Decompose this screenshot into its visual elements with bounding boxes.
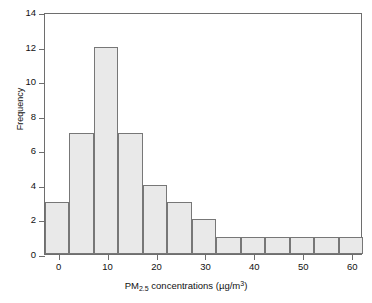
- y-axis-tick-label: 14: [10, 7, 36, 18]
- x-axis-tick-label: 30: [190, 261, 220, 272]
- y-axis-tick-label: 2: [10, 214, 36, 225]
- y-axis-tick-label: 6: [10, 145, 36, 156]
- x-axis-title: PM2.5 concentrations (µg/m3): [0, 280, 372, 292]
- x-axis-tick: [59, 255, 60, 260]
- x-axis-tick: [303, 255, 304, 260]
- y-axis-tick: [39, 83, 45, 84]
- x-axis-tick-label: 50: [288, 261, 318, 272]
- histogram-bar: [69, 133, 93, 254]
- bar-series: [45, 14, 361, 254]
- x-axis-title-middle: concentrations (µg/m: [149, 280, 241, 291]
- histogram-bar: [192, 219, 216, 254]
- y-axis-tick-label: 0: [10, 249, 36, 260]
- y-axis-tick-label: 4: [10, 180, 36, 191]
- histogram-figure: Frequency 02468101214 0102030405060 PM2.…: [0, 0, 372, 303]
- y-axis-title: Frequency: [15, 59, 25, 159]
- y-axis-tick-label: 12: [10, 42, 36, 53]
- histogram-bar: [290, 237, 314, 254]
- histogram-bar: [167, 202, 191, 254]
- y-axis-tick: [39, 14, 45, 15]
- histogram-bar: [118, 133, 142, 254]
- x-axis-title-suffix: ): [244, 280, 247, 291]
- y-axis-tick: [39, 152, 45, 153]
- histogram-bar: [339, 237, 363, 254]
- x-axis-tick: [254, 255, 255, 260]
- y-axis-tick-label: 10: [10, 76, 36, 87]
- histogram-bar: [94, 47, 118, 254]
- y-axis-tick: [39, 221, 45, 222]
- histogram-bar: [143, 185, 167, 254]
- x-axis-tick-label: 40: [239, 261, 269, 272]
- histogram-bar: [314, 237, 338, 254]
- x-axis-tick-label: 20: [142, 261, 172, 272]
- x-axis-tick: [108, 255, 109, 260]
- y-axis-tick: [39, 187, 45, 188]
- y-axis-tick: [39, 49, 45, 50]
- y-axis-tick: [39, 118, 45, 119]
- x-axis-tick-label: 60: [337, 261, 367, 272]
- histogram-bar: [45, 202, 69, 254]
- x-axis-tick-label: 10: [93, 261, 123, 272]
- y-axis-tick-label: 8: [10, 111, 36, 122]
- histogram-bar: [241, 237, 265, 254]
- x-axis-tick-label: 0: [44, 261, 74, 272]
- x-axis-tick: [157, 255, 158, 260]
- plot-area: [44, 13, 362, 255]
- x-axis-title-subscript: 2.5: [139, 285, 149, 292]
- histogram-bar: [216, 237, 240, 254]
- x-axis-tick: [205, 255, 206, 260]
- x-axis-tick-labels: 0102030405060: [44, 261, 362, 275]
- histogram-bar: [265, 237, 289, 254]
- x-axis-title-prefix: PM: [125, 280, 139, 291]
- x-axis-tick: [352, 255, 353, 260]
